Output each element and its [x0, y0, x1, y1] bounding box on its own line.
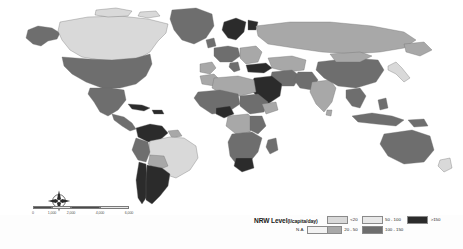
- legend-swatch-gt150: [407, 216, 428, 224]
- scale-tick: 6,000: [125, 210, 134, 216]
- legend-entry-na[interactable]: N.A.: [296, 226, 328, 234]
- legend-swatch-lt20: [327, 216, 348, 224]
- scale-tick: 4,000: [96, 210, 105, 216]
- scale-bar-segments: [33, 206, 129, 209]
- region-british-isles: [206, 38, 216, 48]
- legend-swatch-na: [307, 226, 328, 234]
- scale-tick: 1,000: [48, 210, 57, 216]
- legend-entry-50-100[interactable]: 50 - 100: [362, 216, 404, 224]
- legend-swatch-50-100: [362, 216, 383, 224]
- legend-column-2: 50 - 100 100 - 150: [362, 216, 404, 234]
- scale-segment: [71, 206, 100, 209]
- map-screenshot: 0 1,000 2,000 4,000 6,000 NRW Level(l/ca…: [0, 0, 463, 249]
- scale-bar-labels: 0 1,000 2,000 4,000 6,000: [30, 210, 135, 218]
- scale-tick: 0: [32, 210, 34, 216]
- legend-label-20-50: 20 - 50: [344, 226, 357, 234]
- legend-column-3: >150: [407, 216, 440, 234]
- scale-segment: [52, 206, 71, 209]
- legend-label-gt150: >150: [431, 216, 441, 224]
- legend-label-100-150: 100 - 150: [385, 226, 403, 234]
- legend-label-50-100: 50 - 100: [385, 216, 401, 224]
- legend-swatch-100-150: [362, 226, 383, 234]
- scale-bar: 0 1,000 2,000 4,000 6,000: [30, 206, 135, 218]
- legend-label-lt20: <20: [350, 216, 357, 224]
- region-sri-lanka: [326, 110, 332, 116]
- legend-entry-gt150[interactable]: >150: [407, 216, 440, 224]
- scale-segment: [33, 206, 52, 209]
- legend-title: NRW Level(l/capita/day): [254, 216, 318, 225]
- world-map[interactable]: [0, 0, 463, 215]
- region-hispaniola: [152, 110, 164, 114]
- legend-unit-text: (l/capita/day): [287, 218, 317, 224]
- scale-tick: 2,000: [67, 210, 76, 216]
- legend-columns: <20 20 - 50 50 - 100 100 - 150: [321, 216, 445, 234]
- scale-segment: [100, 206, 129, 209]
- map-legend: NRW Level(l/capita/day) <20 20 - 50 50 -…: [254, 216, 460, 242]
- region-philippines: [378, 98, 388, 110]
- legend-entry-lt20[interactable]: <20: [327, 216, 358, 224]
- legend-entry-100-150[interactable]: 100 - 150: [362, 226, 404, 234]
- legend-title-text: NRW Level: [254, 217, 287, 224]
- legend-label-na: N.A.: [296, 226, 307, 234]
